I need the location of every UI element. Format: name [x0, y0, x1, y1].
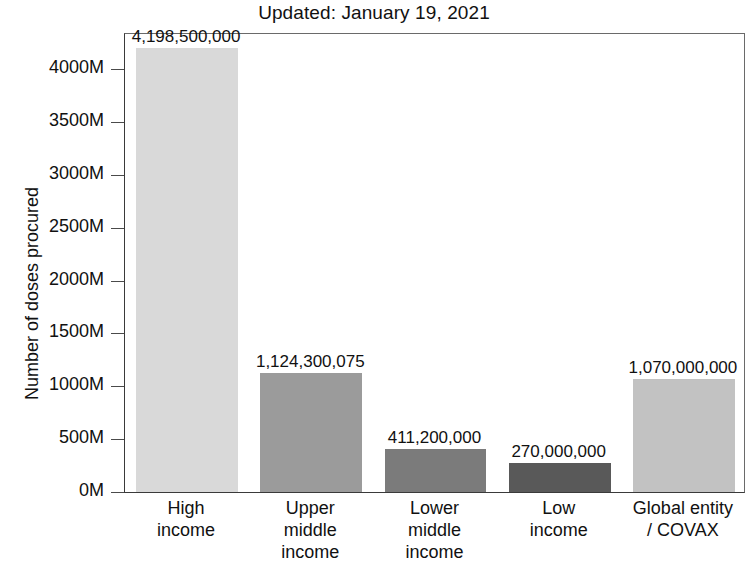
y-axis-tick-label: 3000M [49, 163, 104, 184]
y-axis-tick-label: 500M [59, 427, 104, 448]
x-axis-category-label-line: Upper [248, 497, 372, 519]
x-axis-category-label-line: Lower [372, 497, 496, 519]
x-axis-category-label-line: Global entity [621, 497, 745, 519]
y-axis-title: Number of doses procured [22, 94, 43, 494]
x-axis-category-label-line: income [497, 519, 621, 541]
y-axis-tick-label: 0M [79, 480, 104, 501]
x-axis-category-label: Uppermiddleincome [248, 497, 372, 563]
x-axis-category-label-line: income [248, 541, 372, 563]
y-axis-tick-label: 2500M [49, 216, 104, 237]
x-axis-category-label: Lowermiddleincome [372, 497, 496, 563]
x-axis-category-label-line: income [124, 519, 248, 541]
y-axis-tick-mark [111, 386, 124, 387]
y-axis-tick-mark [111, 228, 124, 229]
y-axis-tick-mark [111, 492, 124, 493]
y-axis-tick-mark [111, 281, 124, 282]
bar-value-label: 4,198,500,000 [132, 27, 241, 47]
plot-area [124, 33, 745, 493]
y-axis-tick-label: 3500M [49, 110, 104, 131]
bar[interactable] [509, 463, 611, 492]
bar[interactable] [633, 379, 735, 492]
x-axis-category-label-line: middle [372, 519, 496, 541]
y-axis-tick-label: 1000M [49, 374, 104, 395]
x-axis-category-label-line: / COVAX [621, 519, 745, 541]
bar-chart: Updated: January 19, 2021 Number of dose… [0, 0, 748, 568]
x-axis-category-label-line: income [372, 541, 496, 563]
x-axis-category-label: Highincome [124, 497, 248, 541]
bar-value-label: 1,124,300,075 [256, 352, 365, 372]
y-axis-tick-label: 4000M [49, 57, 104, 78]
y-axis-tick-label: 2000M [49, 269, 104, 290]
y-axis-tick-label: 1500M [49, 321, 104, 342]
y-axis-tick-mark [111, 69, 124, 70]
y-axis-tick-mark [111, 333, 124, 334]
x-axis-category-label-line: High [124, 497, 248, 519]
y-axis-tick-mark [111, 439, 124, 440]
bar-value-label: 411,200,000 [388, 428, 481, 448]
bar-value-label: 1,070,000,000 [629, 358, 738, 378]
chart-title: Updated: January 19, 2021 [0, 2, 748, 24]
x-axis-category-label-line: middle [248, 519, 372, 541]
y-axis-tick-mark [111, 175, 124, 176]
x-axis-category-label: Lowincome [497, 497, 621, 541]
y-axis-tick-mark [111, 122, 124, 123]
bars-layer [125, 34, 744, 492]
bar[interactable] [385, 449, 487, 492]
bar-value-label: 270,000,000 [511, 442, 606, 462]
bar[interactable] [136, 48, 238, 492]
x-axis-category-label-line: Low [497, 497, 621, 519]
x-axis-category-label: Global entity/ COVAX [621, 497, 745, 541]
bar[interactable] [260, 373, 362, 492]
